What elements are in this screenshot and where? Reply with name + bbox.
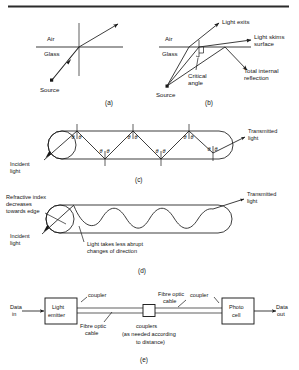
label-critical-line1-b: Critical: [188, 72, 207, 79]
label-incident-line2-d: light: [10, 240, 21, 246]
label-transmitted-line2-d: light: [247, 198, 258, 204]
panel-label-a: (a): [105, 99, 113, 107]
abrupt-change-leader-d: [79, 226, 84, 242]
data-out-label-line2-e: out: [277, 311, 285, 317]
light-emitter-label-line2-e: emitter: [48, 312, 65, 318]
angle-label-c-1a: θ: [72, 134, 75, 140]
label-incident-line1-c: Incident: [10, 161, 30, 167]
label-glass-a: Glass: [44, 50, 60, 57]
label-refractive-line3-d: towards edge: [6, 208, 40, 214]
label-transmitted-line1-d: Transmitted: [247, 191, 276, 197]
label-glass-b: Glass: [162, 50, 178, 57]
couplers-note-line1-e: couplers: [136, 323, 157, 329]
coupler-left-leader-e: [81, 297, 87, 302]
label-air-b: Air: [165, 35, 172, 42]
panel-b: Air Glass Source Light exits Light skims…: [156, 18, 284, 107]
label-light-skims-line2-b: surface: [254, 40, 275, 47]
angle-label-c-4a: θ: [156, 148, 159, 154]
cable-left-label-line2-e: cable: [85, 330, 98, 336]
photo-cell-label-line2-e: cell: [232, 312, 240, 318]
label-light-exits-b: Light exits: [222, 18, 249, 25]
label-transmitted-line1-c: Transmitted: [248, 128, 277, 134]
angle-label-c-6a: θ: [208, 146, 211, 152]
cable-right-label-line2-e: cable: [163, 298, 176, 304]
label-source-a: Source: [40, 86, 60, 93]
coupler-right-label-e: coupler: [190, 292, 208, 298]
incident-ray-arrow-c: [46, 151, 52, 159]
data-in-label-line1-e: Data: [10, 304, 23, 310]
incident-ray-arrow-d: [44, 225, 50, 233]
data-in-label-line2-e: in: [12, 311, 16, 317]
angle-label-c-4b: θ: [163, 148, 166, 154]
refracted-ray-a: [79, 24, 118, 47]
ray-exit-refracted-b: [189, 23, 219, 47]
panel-label-e: (e): [140, 356, 148, 364]
coupler-left-label-e: coupler: [88, 292, 106, 298]
label-light-skims-line1-b: Light skims: [254, 33, 284, 40]
transmitted-ray-c: [213, 137, 245, 153]
coupler-right-leader-e: [214, 297, 219, 303]
figure-page: Air Glass Source (a) Air Glass Source Li…: [0, 0, 299, 370]
panel-d: Refractive index decreases towards edge …: [6, 191, 276, 275]
ray-skim-b: [199, 40, 251, 47]
light-emitter-block-e: [45, 298, 77, 324]
label-refractive-line2-d: decreases: [6, 201, 32, 207]
label-air-a: Air: [47, 35, 54, 42]
angle-label-c-5a: θ: [184, 134, 187, 140]
photo-cell-block-e: [222, 298, 254, 324]
label-incident-line1-d: Incident: [10, 233, 30, 239]
data-out-label-line1-e: Data: [276, 304, 289, 310]
panel-e: Light emitter Photo cell Data in Data ou…: [10, 291, 289, 364]
label-total-internal-line1-b: Total internal: [244, 67, 279, 74]
label-critical-line2-b: angle: [188, 79, 204, 86]
panel-label-c: (c): [135, 176, 142, 184]
cable-left-leader-e: [104, 312, 112, 322]
label-transmitted-line2-c: light: [248, 135, 259, 141]
angle-label-c-2a: θ: [100, 148, 103, 154]
couplers-note-line2-e: (as needed according: [122, 331, 176, 337]
label-abrupt-line1-d: Light takes less abrupt: [87, 241, 143, 247]
source-point-a: [50, 79, 53, 82]
transmitted-ray-d: [213, 199, 244, 209]
angle-label-c-3b: θ: [135, 134, 138, 140]
label-abrupt-line2-d: changes of direction: [87, 248, 137, 254]
panel-label-b: (b): [205, 99, 213, 107]
sinusoidal-ray-d: [74, 206, 213, 228]
label-incident-line2-c: light: [10, 168, 21, 174]
panel-a: Air Glass Source (a): [36, 23, 123, 107]
critical-angle-leader-b: [196, 58, 198, 70]
angle-label-c-1b: θ: [79, 134, 82, 140]
panel-label-d: (d): [138, 267, 146, 275]
angle-label-c-2b: θ: [107, 148, 110, 154]
photo-cell-label-line1-e: Photo: [229, 304, 244, 310]
label-refractive-line1-d: Refractive index: [6, 194, 46, 200]
critical-angle-arc-b: [196, 56, 199, 57]
panel-c: θ θ θ θ θ θ θ θ θ θ θ θ Incident light T…: [10, 124, 277, 184]
cable-right-label-line1-e: Fibre optic: [158, 291, 184, 297]
cable-right-leader-e: [178, 300, 186, 307]
light-emitter-label-line1-e: Light: [52, 304, 65, 310]
angle-label-c-6b: θ: [215, 146, 218, 152]
angle-label-c-3a: θ: [128, 134, 131, 140]
cable-left-label-line1-e: Fibre optic: [80, 323, 106, 329]
angle-label-c-5b: θ: [191, 134, 194, 140]
label-total-internal-line2-b: reflection: [244, 74, 269, 81]
couplers-note-line3-e: to distance): [136, 339, 165, 345]
mid-coupler-block-e: [143, 305, 155, 317]
label-source-b: Source: [156, 91, 176, 98]
right-angle-marker-b: [199, 47, 204, 53]
